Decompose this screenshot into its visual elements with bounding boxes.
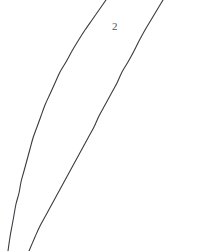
- plot-background: [0, 0, 205, 251]
- curve-plot-canvas: [0, 0, 205, 251]
- curve-label-2: 2: [112, 21, 118, 32]
- figure-container: 2: [0, 0, 205, 251]
